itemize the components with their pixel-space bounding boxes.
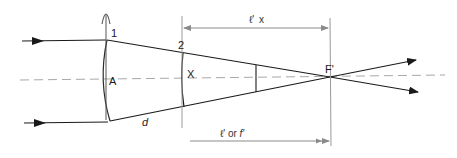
dimension-bottom-label: ℓ' or f' [220,128,245,139]
optical-axis [20,75,445,80]
focal-point-label: F' [325,63,334,75]
arrow-icon [34,119,46,127]
surface-1-label: 1 [111,27,117,39]
vertex-a-label: A [109,75,117,87]
dimension-bottom-italic: f' [240,128,246,139]
outgoing-ray-bottom [330,77,418,92]
refracted-ray-bottom [110,77,330,121]
arrow-icon [316,139,322,144]
optics-diagram: 1 2 A X F' d ℓ' x ℓ' or f' [0,0,457,158]
dimension-top-suffix: x [259,14,264,25]
reference-line-focus [330,18,331,146]
outgoing-ray-top [330,60,416,77]
dimension-top-label: ℓ' x [249,14,264,25]
refracted-ray-top [107,40,330,77]
point-x-label: X [187,68,195,80]
dimension-top-prefix: ℓ' [249,14,254,25]
surface-2-label: 2 [178,39,184,51]
ray-distance-label: d [142,116,149,128]
dimension-bottom-prefix: ℓ' or [220,128,240,139]
arrow-icon [32,37,44,45]
